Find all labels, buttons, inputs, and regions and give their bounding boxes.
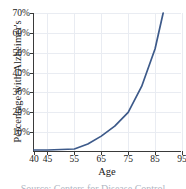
- x-tick-label: 55: [70, 154, 80, 164]
- gridline-x: [182, 13, 183, 151]
- y-tick-label: 70%: [13, 8, 30, 18]
- x-tick-label: 45: [43, 154, 53, 164]
- x-tick-label: 65: [97, 154, 107, 164]
- x-tick-label: 85: [150, 154, 160, 164]
- data-line-series: [34, 13, 182, 152]
- y-tick-label: 60%: [13, 28, 30, 38]
- x-tick-label: 75: [123, 154, 133, 164]
- x-tick-label: 40: [29, 154, 39, 164]
- figure-caption: Source: Centers for Disease Control: [0, 182, 186, 189]
- y-tick-label: 10%: [13, 127, 30, 137]
- x-axis-title: Age: [33, 166, 181, 177]
- y-tick-label: 40%: [13, 68, 30, 78]
- plot-area: 10%20%30%40%50%60%70% 40455565758595: [33, 13, 181, 152]
- x-tick-label: 95: [177, 154, 186, 164]
- y-tick-label: 20%: [13, 107, 30, 117]
- y-tick-label: 50%: [13, 48, 30, 58]
- y-tick-label: 30%: [13, 87, 30, 97]
- alzheimers-prevalence-chart: Percentage with Alzheimer's 10%20%30%40%…: [0, 0, 186, 189]
